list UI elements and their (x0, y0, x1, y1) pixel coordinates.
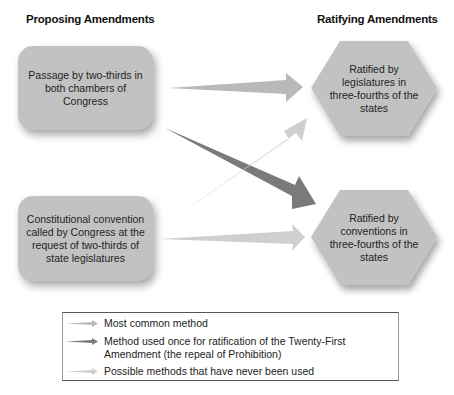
legend-label: Method used once for ratification of the… (104, 335, 394, 361)
legend-arrow-icon-most-common (66, 317, 98, 330)
proposal-method-congress-label: Passage by two-thirds in both chambers o… (18, 69, 153, 108)
arrow-convention-to-conventions (160, 224, 305, 251)
proposal-method-convention-label: Constitutional convention called by Cong… (18, 213, 153, 265)
proposal-method-convention: Constitutional convention called by Cong… (18, 196, 153, 281)
legend-item-never-used: Possible methods that have never been us… (63, 365, 314, 378)
arrow-congress-to-conventions (165, 128, 316, 209)
ratification-method-conventions: Ratified by conventions in three-fourths… (311, 190, 437, 285)
legend-item-used-once: Method used once for ratification of the… (63, 335, 394, 361)
legend-label: Most common method (104, 317, 208, 330)
legend-item-most-common: Most common method (63, 317, 208, 330)
ratification-method-conventions-label: Ratified by conventions in three-fourths… (329, 212, 419, 264)
arrow-convention-to-legislatures (162, 118, 307, 226)
proposal-method-congress: Passage by two-thirds in both chambers o… (18, 46, 153, 130)
ratification-method-legislatures: Ratified by legislatures in three-fourth… (311, 41, 437, 136)
legend-arrow-icon-used-once (66, 335, 98, 348)
arrow-congress-to-legislatures (168, 73, 303, 102)
legend: Most common method Method used once for … (62, 312, 399, 381)
legend-arrow-icon-never-used (66, 365, 98, 378)
ratification-method-legislatures-label: Ratified by legislatures in three-fourth… (329, 63, 419, 115)
legend-label: Possible methods that have never been us… (104, 365, 314, 378)
